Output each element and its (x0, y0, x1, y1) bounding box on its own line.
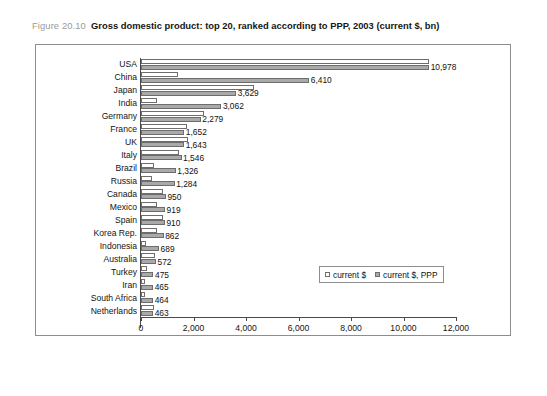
bar-ppp[interactable] (141, 91, 236, 96)
bar-ppp[interactable] (141, 104, 221, 109)
bar-row: Australia572 (141, 252, 456, 265)
x-axis-tick (404, 317, 405, 321)
bar-current-wrap (141, 98, 456, 103)
bar-current[interactable] (141, 279, 145, 284)
category-label: Japan (114, 85, 137, 95)
bar-row: Spain910 (141, 213, 456, 226)
bar-current-wrap (141, 228, 456, 233)
bar-current-wrap (141, 215, 456, 220)
chart-legend: current $ current $, PPP (319, 266, 444, 283)
bar-ppp[interactable] (141, 285, 153, 290)
category-label: Mexico (110, 202, 137, 212)
x-axis-tick-label: 6,000 (288, 323, 310, 333)
bar-current[interactable] (141, 98, 157, 103)
figure-container: Figure 20.10 Gross domestic product: top… (0, 0, 547, 396)
x-axis-tick-label: 2,000 (183, 323, 205, 333)
bar-current[interactable] (141, 111, 204, 116)
category-label: Spain (115, 215, 137, 225)
bar-ppp-wrap: 1,652 (141, 130, 456, 135)
bar-ppp-wrap: 862 (141, 233, 456, 238)
gray-square-icon (375, 272, 380, 277)
bar-current[interactable] (141, 124, 187, 129)
bar-current-wrap (141, 202, 456, 207)
bar-ppp[interactable] (141, 233, 164, 238)
bar-current[interactable] (141, 228, 157, 233)
bar-current[interactable] (141, 163, 154, 168)
white-square-icon (325, 272, 330, 277)
bar-row: France1,652 (141, 123, 456, 136)
bar-ppp-wrap: 572 (141, 259, 456, 264)
bar-ppp[interactable] (141, 259, 156, 264)
legend-item-current: current $ (325, 270, 366, 280)
bar-current[interactable] (141, 72, 178, 77)
bar-row: Canada950 (141, 188, 456, 201)
bar-row: UK1,643 (141, 136, 456, 149)
bar-ppp[interactable] (141, 246, 159, 251)
category-label: China (115, 72, 137, 82)
bar-current-wrap (141, 59, 456, 64)
bar-current[interactable] (141, 215, 163, 220)
category-label: UK (125, 137, 137, 147)
bar-ppp[interactable] (141, 181, 175, 186)
bar-ppp[interactable] (141, 65, 429, 70)
bar-ppp[interactable] (141, 311, 153, 316)
bar-row: China6,410 (141, 71, 456, 84)
bar-ppp[interactable] (141, 272, 153, 277)
bar-current-wrap (141, 85, 456, 90)
bar-ppp[interactable] (141, 117, 201, 122)
x-axis-tick (299, 317, 300, 321)
bar-current[interactable] (141, 176, 152, 181)
legend-item-ppp: current $, PPP (375, 270, 437, 280)
bar-current[interactable] (141, 266, 147, 271)
bar-ppp[interactable] (141, 155, 182, 160)
bar-row: Netherlands463 (141, 304, 456, 317)
category-label: USA (119, 59, 137, 69)
bar-current[interactable] (141, 202, 157, 207)
x-axis-tick (351, 317, 352, 321)
bar-ppp-wrap: 464 (141, 298, 456, 303)
bar-ppp-wrap: 3,062 (141, 104, 456, 109)
bar-ppp-wrap: 10,978 (141, 65, 456, 70)
x-axis-tick (246, 317, 247, 321)
category-label: Australia (104, 254, 137, 264)
bar-row: Brazil1,326 (141, 162, 456, 175)
bar-current[interactable] (141, 305, 154, 310)
bar-current[interactable] (141, 292, 145, 297)
figure-title: Gross domestic product: top 20, ranked a… (91, 20, 439, 31)
bar-row: Italy1,546 (141, 149, 456, 162)
legend-label-ppp: current $, PPP (383, 270, 437, 280)
bar-row: Indonesia689 (141, 239, 456, 252)
bar-current[interactable] (141, 189, 163, 194)
category-label: Netherlands (91, 306, 137, 316)
bar-current[interactable] (141, 59, 429, 64)
bar-ppp[interactable] (141, 168, 176, 173)
chart-plot-area: USA10,978China6,410Japan3,629India3,062G… (140, 58, 456, 328)
bar-current-wrap (141, 305, 456, 310)
category-label: Germany (102, 111, 137, 121)
x-axis-tick-label: 0 (139, 323, 144, 333)
bar-current-wrap (141, 72, 456, 77)
category-label: Russia (111, 176, 137, 186)
bar-current-wrap (141, 241, 456, 246)
bar-ppp-wrap: 465 (141, 285, 456, 290)
x-axis-tick-label: 12,000 (443, 323, 469, 333)
bar-row: Russia1,284 (141, 175, 456, 188)
bar-ppp[interactable] (141, 220, 165, 225)
x-axis-tick (456, 317, 457, 321)
bar-current[interactable] (141, 253, 155, 258)
category-label: France (110, 124, 137, 134)
category-label: Italy (121, 150, 137, 160)
x-axis: 02,0004,0006,0008,00010,00012,000 (141, 317, 456, 318)
bar-current[interactable] (141, 150, 179, 155)
bar-row: South Africa464 (141, 291, 456, 304)
bar-ppp-wrap: 2,279 (141, 117, 456, 122)
bar-ppp[interactable] (141, 142, 184, 147)
bar-ppp[interactable] (141, 78, 309, 83)
bar-current[interactable] (141, 241, 146, 246)
bar-row: USA10,978 (141, 58, 456, 71)
bar-ppp[interactable] (141, 207, 165, 212)
bar-ppp[interactable] (141, 130, 184, 135)
bar-current[interactable] (141, 137, 188, 142)
bar-ppp[interactable] (141, 298, 153, 303)
bar-ppp[interactable] (141, 194, 166, 199)
